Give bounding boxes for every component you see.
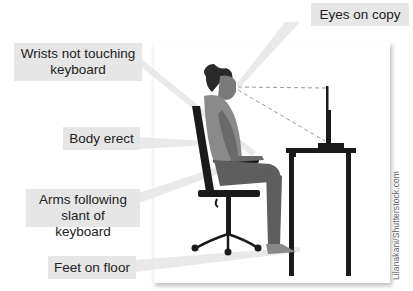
- callout-feet-on-floor: Feet on floor: [48, 256, 136, 279]
- seated-person: [204, 64, 296, 254]
- callout-eyes-on-copy: Eyes on copy: [311, 3, 409, 26]
- monitor: [318, 86, 344, 148]
- image-credit: Lilanakani/Shutterstock.com: [391, 171, 401, 280]
- callout-body-erect: Body erect: [63, 127, 140, 150]
- sight-lines: [238, 87, 327, 141]
- callout-arms: Arms following slant of keyboard: [26, 189, 140, 227]
- pointer-eyes: [237, 22, 300, 87]
- pointer-body: [139, 137, 205, 149]
- face: [218, 76, 236, 100]
- callout-wrists: Wrists not touching keyboard: [14, 43, 142, 81]
- desk: [286, 148, 356, 276]
- lower-leg: [266, 168, 282, 246]
